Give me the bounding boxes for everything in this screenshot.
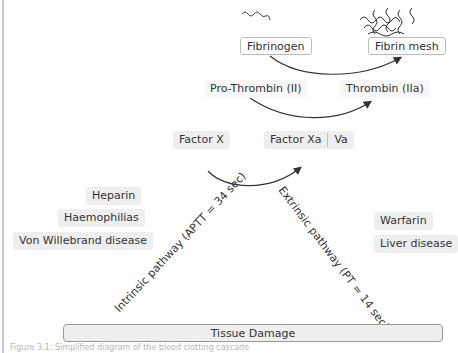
fibrinogen-strand-icon [242, 12, 270, 20]
figure-caption: Figure 3.1: Simplified diagram of the bl… [10, 343, 249, 352]
intrinsic-factor-von-willebrand: Von Willebrand disease [13, 232, 153, 250]
intrinsic-factor-heparin: Heparin [86, 187, 141, 205]
factor-x-node: Factor X [173, 131, 230, 149]
va-label: Va [328, 131, 353, 149]
factor-xa-va-node: Factor Xa Va [264, 131, 354, 149]
fibrinogen-node: Fibrinogen [240, 37, 312, 55]
fibrin-mesh-node: Fibrin mesh [368, 37, 446, 55]
fibrin-mesh-icon [360, 8, 414, 36]
prothrombin-node: Pro-Thrombin (II) [204, 80, 308, 98]
thrombin-node: Thrombin (IIa) [340, 80, 430, 98]
intrinsic-factor-haemophilias: Haemophilias [58, 209, 145, 227]
factor-xa-label: Factor Xa [264, 131, 327, 149]
arrow-fibrinogen-to-fibrin [270, 56, 400, 74]
arrow-factorx-to-factorxa [208, 168, 300, 186]
extrinsic-factor-warfarin: Warfarin [374, 212, 433, 230]
arrow-prothrombin-to-thrombin [250, 98, 370, 118]
tissue-damage-bar: Tissue Damage [63, 324, 443, 342]
extrinsic-factor-liver-disease: Liver disease [374, 235, 458, 253]
